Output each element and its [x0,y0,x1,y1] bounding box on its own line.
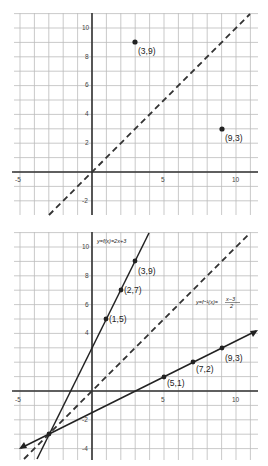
charts: -5 5 10 10 8 6 4 2 -2 (3,9) (9,3) -5 5 1… [0,0,268,466]
bottom-identity-line [24,233,250,459]
svg-text:(9,3): (9,3) [225,133,243,143]
svg-text:-5: -5 [15,176,21,183]
top-point-3-9 [132,39,137,44]
svg-text:y=f⁻¹(x)=: y=f⁻¹(x)= [195,299,219,305]
svg-text:(5,1): (5,1) [167,378,185,388]
svg-text:8: 8 [85,53,89,60]
svg-text:10: 10 [82,24,90,31]
svg-text:(3,9): (3,9) [138,266,156,276]
svg-text:2: 2 [85,139,89,146]
svg-text:10: 10 [232,176,240,183]
svg-text:5: 5 [161,176,165,183]
svg-text:(9,3): (9,3) [225,353,243,363]
svg-text:-2: -2 [82,197,88,204]
svg-text:4: 4 [85,329,89,336]
svg-text:8: 8 [85,272,89,279]
svg-text:-5: -5 [15,396,21,403]
svg-text:(7,2): (7,2) [196,364,214,374]
f-line [37,233,149,459]
svg-text:10: 10 [232,396,240,403]
svg-text:-2: -2 [82,416,88,423]
f-equation-label: y=f(x)=2x+3 [96,238,127,244]
svg-text:4: 4 [85,110,89,117]
svg-text:6: 6 [85,301,89,308]
bottom-point-labels: (3,9) (2,7) (1,5) (5,1) (7,2) (9,3) [109,266,243,388]
svg-text:-4: -4 [82,445,88,452]
top-point-9-3 [219,126,224,131]
svg-text:5: 5 [161,396,165,403]
svg-text:2: 2 [229,303,233,309]
svg-text:(1,5): (1,5) [109,314,127,324]
svg-text:x−3: x−3 [225,296,236,302]
svg-text:(3,9): (3,9) [138,46,156,56]
svg-text:10: 10 [82,243,90,250]
svg-text:6: 6 [85,81,89,88]
finv-equation-label: y=f⁻¹(x)= x−3 2 [195,296,240,309]
svg-text:(2,7): (2,7) [124,285,142,295]
